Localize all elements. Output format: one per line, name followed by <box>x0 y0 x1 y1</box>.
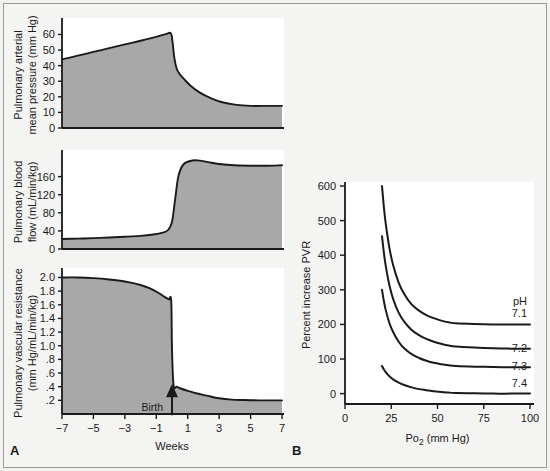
figure-root: 0102030405060Pulmonary arterialmean pres… <box>0 0 550 471</box>
panel-letter-b: B <box>292 443 301 458</box>
panel-letter-a: A <box>10 443 20 458</box>
panel-letters: A B <box>0 0 550 471</box>
